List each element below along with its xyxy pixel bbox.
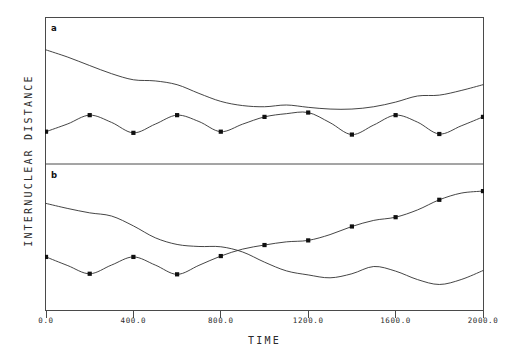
plot-svg xyxy=(45,17,484,311)
data-point-marker xyxy=(481,189,484,193)
data-point-marker xyxy=(131,131,135,135)
data-point-marker xyxy=(394,113,398,117)
data-point-marker xyxy=(45,255,48,259)
x-axis-tick-label: 400.0 xyxy=(121,316,147,325)
data-point-marker xyxy=(262,115,266,119)
data-point-marker xyxy=(481,115,484,119)
plot-frame xyxy=(46,18,484,311)
data-point-marker xyxy=(219,254,223,258)
panel-label-a: a xyxy=(51,23,57,33)
x-axis-tick-label: 2000.0 xyxy=(468,316,499,325)
data-point-marker xyxy=(437,198,441,202)
data-point-marker xyxy=(350,224,354,228)
data-point-marker xyxy=(131,255,135,259)
y-axis-title: INTERNUCLEAR DISTANCE xyxy=(23,61,34,261)
data-point-marker xyxy=(437,132,441,136)
data-point-marker xyxy=(175,272,179,276)
data-point-marker xyxy=(262,243,266,247)
x-axis-tick-label: 0.0 xyxy=(38,316,53,325)
x-axis-tick-label: 800.0 xyxy=(208,316,234,325)
plot-surface xyxy=(45,17,484,311)
data-point-marker xyxy=(306,110,310,114)
x-axis-tick-label: 1200.0 xyxy=(293,316,324,325)
data-point-marker xyxy=(88,272,92,276)
data-point-marker xyxy=(219,130,223,134)
x-axis-tick-label: 1600.0 xyxy=(380,316,411,325)
data-point-marker xyxy=(45,130,48,134)
figure-container: 0.0400.0800.01200.01600.02000.0 TIME INT… xyxy=(0,0,529,361)
data-point-marker xyxy=(175,113,179,117)
data-point-marker xyxy=(306,238,310,242)
x-axis-title: TIME xyxy=(0,335,529,346)
data-point-marker xyxy=(394,215,398,219)
data-point-marker xyxy=(350,132,354,136)
panel-label-b: b xyxy=(51,170,57,180)
data-point-marker xyxy=(88,113,92,117)
